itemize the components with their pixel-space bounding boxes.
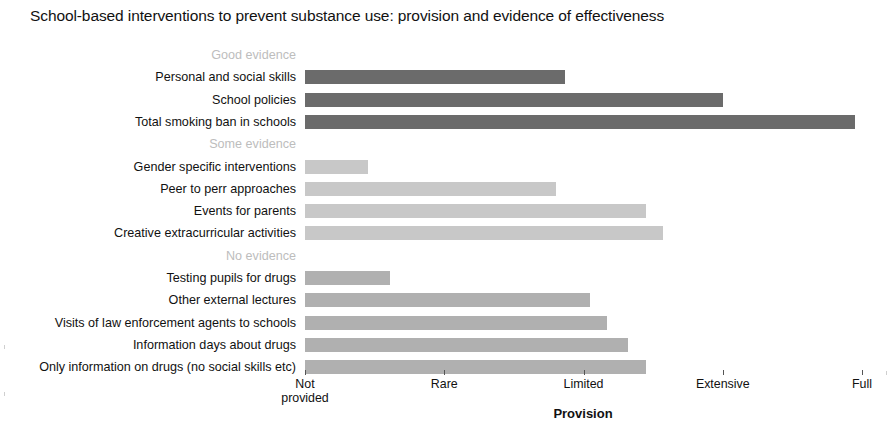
x-axis-tick-mark [723,370,724,375]
bar-category-label: Personal and social skills [155,69,296,86]
x-axis: Provision Not providedRareLimitedExtensi… [0,370,893,434]
bar-row: Personal and social skills [0,67,893,89]
x-axis-tick-label: Rare [431,377,458,391]
x-axis-tick-label: Extensive [696,377,750,391]
bar-row: Creative extracurricular activities [0,223,893,245]
x-axis-tick-mark [305,370,306,375]
bar-row: Events for parents [0,201,893,223]
x-axis-tick-label: Limited [564,377,604,391]
x-axis-tick-mark [584,370,585,375]
bar [305,115,855,129]
group-header-label: No evidence [226,248,296,265]
bar-category-label: Other external lectures [169,292,296,309]
bar [305,70,565,84]
plot-edge-tick-left-top [4,345,5,349]
x-axis-tick-label: Not provided [281,377,329,405]
bar-row: Visits of law enforcement agents to scho… [0,313,893,335]
bar [305,316,607,330]
x-axis-tick-mark [862,370,863,375]
plot-edge-tick-right-top [886,371,887,375]
bar-row: Other external lectures [0,290,893,312]
chart-title: School-based interventions to prevent su… [30,7,664,25]
bar [305,93,723,107]
group-header-label: Good evidence [211,47,296,64]
bar-row: Information days about drugs [0,335,893,357]
bar [305,182,556,196]
bar-row: Testing pupils for drugs [0,268,893,290]
bar-row: Peer to perr approaches [0,179,893,201]
bar-row: Total smoking ban in schools [0,112,893,134]
bar-category-label: Creative extracurricular activities [114,225,296,242]
bar [305,338,628,352]
x-axis-title: Provision [553,406,612,421]
group-header-row: Good evidence [0,45,893,67]
bar-category-label: Gender specific interventions [134,159,296,176]
bar [305,226,663,240]
bar-category-label: Events for parents [194,203,296,220]
bar-category-label: Total smoking ban in schools [135,114,296,131]
bar-category-label: Visits of law enforcement agents to scho… [55,315,296,332]
bar-category-label: Peer to perr approaches [160,181,296,198]
bar-category-label: Testing pupils for drugs [166,270,296,287]
group-header-row: Some evidence [0,134,893,156]
x-axis-tick-label: Full [852,377,872,391]
chart-root: School-based interventions to prevent su… [0,0,893,434]
bar-category-label: Information days about drugs [133,337,296,354]
plot-area: Good evidencePersonal and social skillsS… [0,40,893,370]
bar-row: Gender specific interventions [0,157,893,179]
x-axis-tick-mark [444,370,445,375]
group-header-label: Some evidence [209,136,296,153]
bar [305,204,646,218]
bar-row: School policies [0,90,893,112]
bar-category-label: School policies [212,92,296,109]
plot-edge-tick-left-bottom [4,392,5,396]
bar [305,293,590,307]
bar [305,271,390,285]
group-header-row: No evidence [0,246,893,268]
bar [305,160,368,174]
